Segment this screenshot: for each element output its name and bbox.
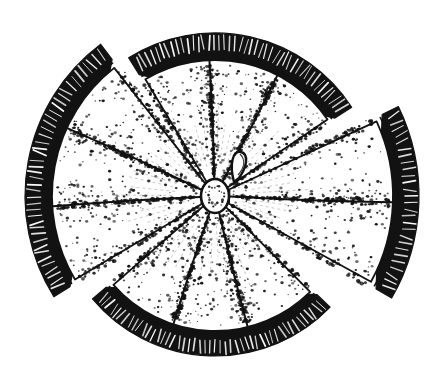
citrus-engraving-illustration: Citrus fruit cross-section, separated in… — [0, 0, 434, 377]
central-pith-core — [201, 179, 229, 213]
citrus-drawing-svg — [0, 0, 434, 377]
